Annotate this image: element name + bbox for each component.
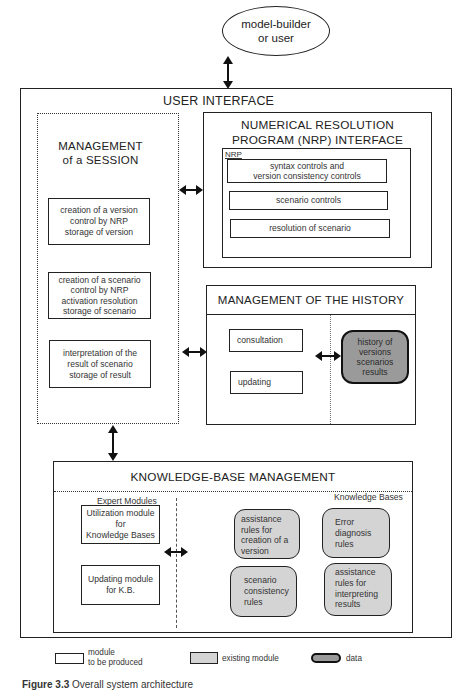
text-line: control by NRP: [71, 285, 129, 296]
legend-swatch-data: [311, 653, 341, 663]
text-line: diagnosis: [335, 528, 389, 539]
text-line: assistance: [241, 514, 299, 525]
text-line: resolution of scenario: [269, 223, 351, 234]
legend-label-existing-module: existing module: [222, 653, 279, 664]
text-line: storage of result: [69, 370, 131, 381]
text-line: for K.B.: [106, 585, 135, 596]
history-module-updating: updating: [230, 371, 303, 394]
figure-number: Figure 3.3: [22, 679, 69, 690]
expert-module-utilization: Utilization module for Knowledge Bases: [81, 505, 160, 544]
actor-label-line1: model-builder: [241, 17, 311, 31]
actor-label-line2: or user: [258, 31, 294, 45]
nrp-module-scenario-controls: scenario controls: [229, 191, 388, 210]
session-module-scenario: creation of a scenario control by NRP ac…: [48, 272, 151, 319]
legend-swatch-existing-module: [190, 652, 218, 664]
figure-caption: Figure 3.3 Overall system architecture: [22, 679, 193, 690]
kb-knowledge-bases-label: Knowledge Bases: [334, 492, 403, 503]
kb-assistance-rules-interpreting: assistance rules for interpreting result…: [324, 563, 392, 616]
text-line: creation of a version: [60, 205, 137, 216]
nrp-title-line1: NUMERICAL RESOLUTION: [204, 118, 431, 133]
knowledge-base-management-box: KNOWLEDGE-BASE MANAGEMENT Expert Modules…: [53, 461, 413, 633]
user-interface-title: USER INTERFACE: [163, 94, 274, 108]
text-line: rules for: [241, 525, 299, 536]
legend-label-module-to-be-produced: module to be produced: [88, 648, 143, 668]
session-title-line2: of a SESSION: [38, 153, 163, 167]
session-title-line1: MANAGEMENT: [38, 139, 163, 153]
kb-title: KNOWLEDGE-BASE MANAGEMENT: [54, 462, 412, 492]
text-line: to be produced: [88, 658, 143, 668]
text-line: syntax controls and: [270, 161, 344, 172]
nrp-module-syntax-controls: syntax controls and version consistency …: [227, 159, 387, 183]
history-data-arrow-icon: [315, 351, 341, 361]
text-line: rules for: [335, 578, 391, 589]
history-module-consultation: consultation: [229, 329, 303, 352]
history-data-store: history of versions scenarios results: [341, 330, 409, 384]
text-line: rules: [335, 539, 389, 550]
history-management-box: MANAGEMENT OF THE HISTORY consultation u…: [206, 285, 416, 425]
text-line: version consistency controls: [253, 171, 360, 182]
nrp-interface-title: NUMERICAL RESOLUTION PROGRAM (NRP) INTER…: [204, 118, 431, 148]
text-line: control by NRP: [70, 216, 128, 227]
text-line: Utilization module: [87, 508, 155, 519]
figure-caption-text: Overall system architecture: [72, 679, 193, 690]
actor-ellipse: model-builder or user: [222, 6, 330, 56]
text-line: scenario: [244, 575, 296, 586]
expert-module-updating: Updating module for K.B.: [81, 565, 160, 605]
session-nrp-arrow-icon: [179, 185, 203, 195]
text-line: interpreting: [335, 589, 391, 600]
history-divider: [330, 315, 331, 424]
text-line: Knowledge Bases: [86, 530, 155, 541]
session-title: MANAGEMENT of a SESSION: [38, 139, 163, 167]
expert-kb-arrow-icon: [164, 547, 188, 557]
text-line: consistency: [244, 586, 296, 597]
text-line: scenario controls: [276, 195, 341, 206]
session-module-interpretation: interpretation of the result of scenario…: [49, 340, 151, 388]
nrp-interface-box: NUMERICAL RESOLUTION PROGRAM (NRP) INTER…: [203, 112, 432, 268]
text-line: versions: [359, 347, 391, 357]
text-line: consultation: [237, 335, 283, 346]
text-line: result of scenario: [67, 359, 132, 370]
session-kb-arrow-icon: [108, 425, 118, 461]
text-line: for: [115, 519, 125, 530]
nrp-inner-box: NRP syntax controls and version consiste…: [222, 148, 411, 258]
text-line: storage of version: [65, 227, 133, 238]
text-line: updating: [238, 377, 271, 388]
text-line: storage of scenario: [63, 306, 136, 317]
text-line: history of: [358, 337, 393, 347]
text-line: activation resolution: [62, 296, 138, 307]
text-line: creation of a scenario: [58, 275, 140, 286]
text-line: creation of a: [241, 535, 299, 546]
nrp-title-line2: PROGRAM (NRP) INTERFACE: [204, 133, 431, 148]
history-title: MANAGEMENT OF THE HISTORY: [207, 286, 415, 315]
text-line: scenarios: [357, 357, 394, 367]
text-line: rules: [244, 597, 296, 608]
text-line: module: [88, 648, 143, 658]
legend: module to be produced existing module da…: [0, 648, 470, 670]
legend-swatch-module-to-be-produced: [55, 653, 84, 664]
kb-assistance-rules-creation: assistance rules for creation of a versi…: [234, 509, 300, 559]
session-history-arrow-icon: [182, 347, 207, 357]
text-line: interpretation of the: [63, 348, 137, 359]
text-line: Error: [335, 517, 389, 528]
legend-label-data: data: [346, 653, 362, 664]
actor-ui-arrow-icon: [222, 56, 234, 90]
kb-divider: [176, 498, 177, 628]
text-line: results: [362, 367, 387, 377]
text-line: Updating module: [88, 574, 153, 585]
session-management-box: MANAGEMENT of a SESSION creation of a ve…: [37, 113, 179, 424]
nrp-module-resolution: resolution of scenario: [230, 219, 390, 238]
text-line: version: [241, 546, 299, 557]
text-line: assistance: [335, 567, 391, 578]
kb-error-diagnosis-rules: Error diagnosis rules: [322, 508, 390, 558]
text-line: results: [335, 599, 391, 610]
kb-scenario-consistency-rules: scenario consistency rules: [230, 566, 297, 617]
session-module-version: creation of a version control by NRP sto…: [48, 198, 150, 245]
